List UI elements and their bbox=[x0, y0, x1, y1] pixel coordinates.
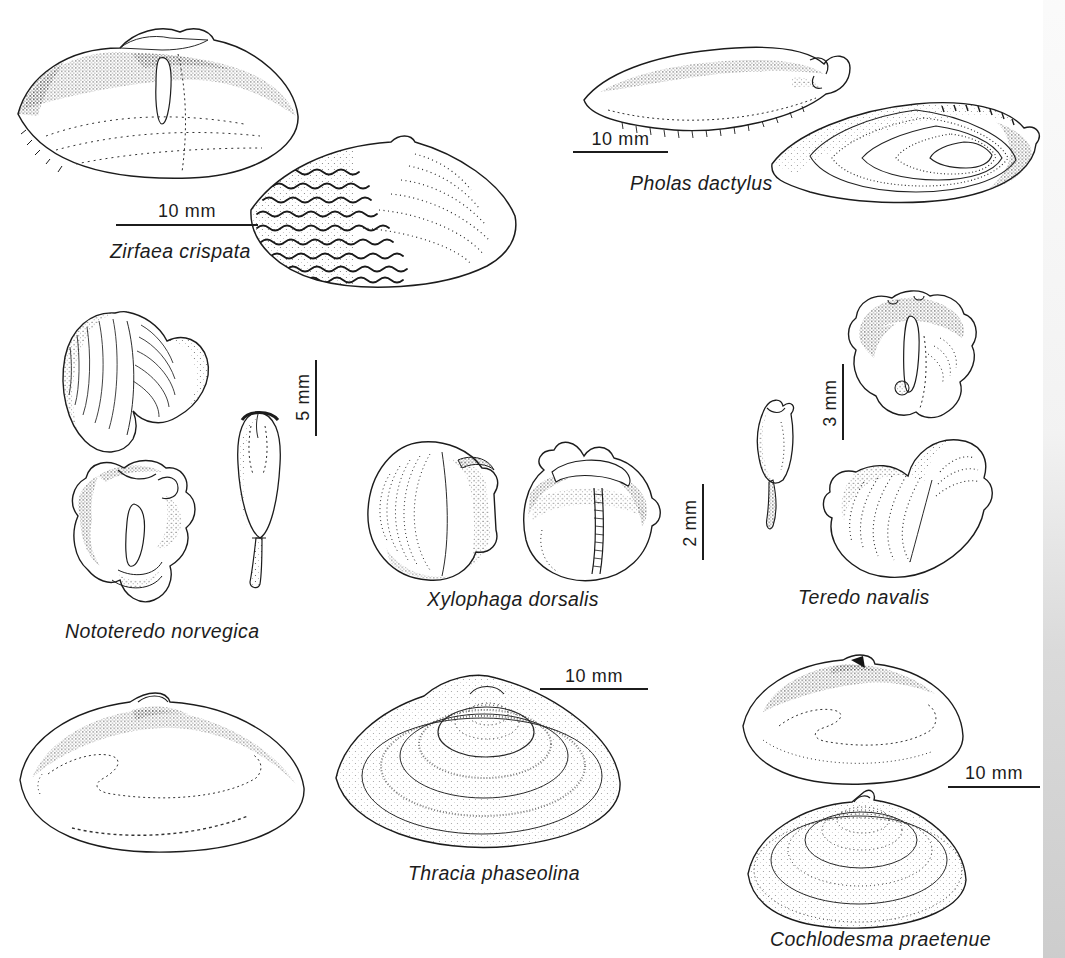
pholas-scale-value: 10 mm bbox=[573, 128, 668, 150]
nototeredo-scale-bar bbox=[315, 360, 317, 436]
teredo-exterior-valve-illustration bbox=[812, 428, 1000, 590]
xylophaga-species-label: Xylophaga dorsalis bbox=[427, 588, 599, 611]
xylophaga-left-valve-illustration bbox=[356, 430, 508, 588]
thracia-interior-valve-illustration bbox=[12, 682, 312, 864]
thracia-species-label: Thracia phaseolina bbox=[408, 862, 580, 885]
teredo-scale-value: 3 mm bbox=[819, 365, 841, 441]
zirfaea-species-label: Zirfaea crispata bbox=[110, 240, 251, 263]
teredo-interior-valve-illustration bbox=[836, 282, 994, 430]
thracia-exterior-valve-illustration bbox=[324, 666, 632, 858]
nototeredo-pallet-illustration bbox=[218, 406, 298, 598]
nototeredo-species-label: Nototeredo norvegica bbox=[65, 620, 259, 643]
pholas-species-label: Pholas dactylus bbox=[630, 172, 773, 195]
zirfaea-crispata-exterior-valve-illustration bbox=[243, 132, 525, 300]
pholas-dactylus-exterior-valve-illustration bbox=[766, 92, 1044, 214]
cochlodesma-scale-bar bbox=[948, 786, 1040, 788]
thracia-scale-value: 10 mm bbox=[540, 665, 648, 687]
zirfaea-scale-value: 10 mm bbox=[116, 200, 258, 222]
teredo-scale-bar bbox=[842, 364, 844, 440]
xylophaga-right-valve-illustration bbox=[512, 430, 664, 588]
xylophaga-scale-bar bbox=[702, 484, 704, 560]
zirfaea-scale-bar bbox=[116, 224, 258, 226]
nototeredo-interior-valve-illustration bbox=[58, 450, 226, 615]
cochlodesma-species-label: Cochlodesma praetenue bbox=[770, 928, 991, 951]
teredo-pallet-illustration bbox=[737, 392, 809, 544]
cochlodesma-exterior-valve-illustration bbox=[738, 786, 973, 936]
pholas-scale-bar bbox=[573, 151, 668, 153]
thracia-scale-bar bbox=[540, 688, 648, 690]
page-scan-edge bbox=[1043, 0, 1065, 958]
nototeredo-scale-value: 5 mm bbox=[292, 359, 314, 435]
cochlodesma-scale-value: 10 mm bbox=[948, 762, 1040, 784]
teredo-species-label: Teredo navalis bbox=[798, 586, 930, 609]
nototeredo-exterior-valve-illustration bbox=[55, 303, 235, 465]
xylophaga-scale-value: 2 mm bbox=[679, 485, 701, 561]
illustration-plate: 10 mm Zirfaea crispata bbox=[0, 0, 1065, 958]
cochlodesma-interior-valve-illustration bbox=[735, 648, 970, 796]
